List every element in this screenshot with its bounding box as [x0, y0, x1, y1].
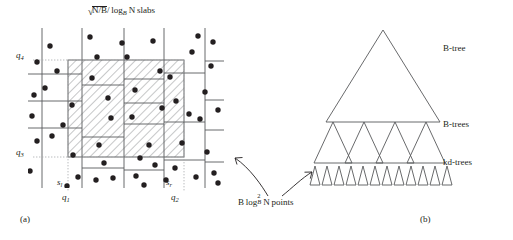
- kdtree-triangle: [418, 166, 428, 185]
- kdtree-triangle: [394, 166, 404, 185]
- kdtree-triangle: [382, 166, 392, 185]
- label-q4: q4: [16, 51, 24, 61]
- panel-a-group: [27, 28, 224, 192]
- connector-arrow: [235, 158, 312, 197]
- label-b-trees: B-trees: [443, 120, 469, 129]
- label-sr: sr: [166, 178, 172, 188]
- btree-triangle: [407, 122, 445, 163]
- sl-subscript: l: [61, 181, 63, 188]
- title-slash: /: [107, 5, 110, 15]
- points-logscript: 2B: [257, 196, 261, 205]
- q1-subscript: 1: [67, 196, 70, 203]
- panel-b-group: [310, 30, 452, 185]
- points-annotation: B log2B N points: [238, 196, 293, 207]
- label-q3: q3: [16, 148, 24, 158]
- points-suffix: points: [271, 197, 293, 207]
- kdtree-triangle: [442, 166, 452, 185]
- panel-b-caption: (b): [420, 215, 431, 224]
- label-q2: q2: [171, 193, 179, 203]
- points-log: log: [246, 197, 258, 207]
- q2-subscript: 2: [176, 196, 179, 203]
- log-arg: N: [129, 5, 136, 15]
- kdtree-triangle: [322, 166, 332, 185]
- slabs-title: √N/B/ logB N slabs: [88, 6, 155, 16]
- figure-container: √N/B/ logB N slabs q4 q3 sl q1 sr q2 (a)…: [0, 0, 513, 240]
- btree-triangle: [314, 122, 352, 163]
- label-sl: sl: [57, 178, 62, 188]
- arrow-tail-right: [282, 172, 312, 196]
- points-arg: N: [263, 197, 270, 207]
- middle-btrees: [314, 122, 445, 163]
- sqrt-radical: √N/B: [88, 6, 107, 15]
- kdtree-triangle: [406, 166, 416, 185]
- slabs-word: slabs: [137, 5, 155, 15]
- label-kd-trees: kd-trees: [443, 158, 472, 167]
- leaf-kdtrees: [310, 166, 452, 185]
- label-q1: q1: [62, 193, 70, 203]
- q3-subscript: 3: [21, 151, 24, 158]
- btree-triangle: [345, 122, 383, 163]
- kdtree-triangle: [370, 166, 380, 185]
- btree-triangle: [376, 122, 414, 163]
- kdtree-triangle: [334, 166, 344, 185]
- label-b-tree: B-tree: [443, 44, 466, 53]
- kdtree-triangle: [358, 166, 368, 185]
- q4-subscript: 4: [21, 54, 24, 61]
- panel-a-caption: (a): [20, 215, 30, 224]
- root-btree-triangle: [326, 30, 440, 122]
- arrow-tail-left: [235, 158, 268, 196]
- points-base: B: [257, 199, 261, 206]
- kdtree-triangle: [430, 166, 440, 185]
- kdtree-triangle: [346, 166, 356, 185]
- log-base: B: [123, 9, 127, 16]
- sr-subscript: r: [170, 181, 173, 188]
- points-prefix: B: [238, 197, 244, 207]
- query-rectangle: [68, 60, 184, 157]
